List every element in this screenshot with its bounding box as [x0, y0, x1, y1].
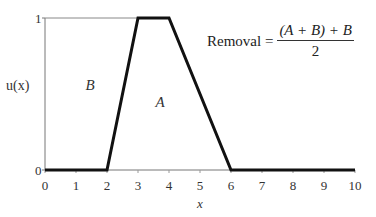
region-b-label: B: [85, 77, 94, 93]
formula-numerator: (A + B) + B: [277, 22, 353, 41]
formula-denominator: 2: [312, 41, 320, 60]
svg-text:7: 7: [259, 178, 266, 193]
x-axis-label: x: [196, 196, 203, 211]
removal-formula: Removal = (A + B) + B 2: [207, 22, 354, 60]
formula-lhs: Removal =: [207, 33, 273, 50]
svg-text:0: 0: [42, 178, 49, 193]
svg-text:6: 6: [228, 178, 235, 193]
svg-text:1: 1: [73, 178, 80, 193]
x-tick-labels: 0 1 2 3 4 5 6 7 8 9 10: [42, 178, 362, 193]
y-tick-label-0: 0: [35, 163, 42, 178]
formula-fraction: (A + B) + B 2: [277, 22, 353, 60]
svg-text:3: 3: [135, 178, 142, 193]
svg-text:10: 10: [349, 178, 362, 193]
svg-text:2: 2: [104, 178, 111, 193]
svg-text:9: 9: [321, 178, 328, 193]
y-axis-label: u(x): [6, 78, 30, 94]
svg-text:4: 4: [166, 178, 173, 193]
y-tick-label-1: 1: [35, 11, 42, 26]
svg-text:8: 8: [290, 178, 297, 193]
region-a-label: A: [154, 94, 165, 110]
svg-text:5: 5: [197, 178, 204, 193]
